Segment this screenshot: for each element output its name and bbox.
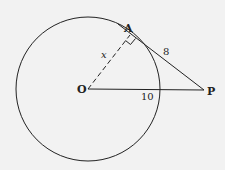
radius-OA <box>88 35 130 89</box>
point-label-O: O <box>77 83 87 96</box>
segment-label-10: 10 <box>141 91 154 102</box>
point-label-P: P <box>207 85 215 98</box>
segment-label-x: x <box>101 49 107 60</box>
geometry-diagram: A O P x 8 10 <box>0 0 225 170</box>
point-label-A: A <box>123 22 133 35</box>
right-angle-marker <box>126 39 136 45</box>
segment-OP <box>88 89 204 90</box>
segment-label-8: 8 <box>163 46 169 57</box>
